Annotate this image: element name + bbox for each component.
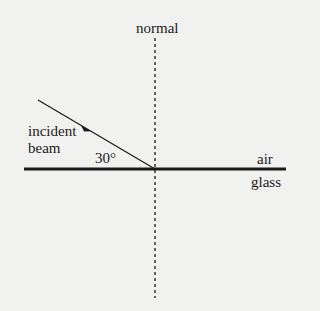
arrowhead-icon [81,125,91,131]
beam-label: beam [28,141,60,156]
glass-label: glass [251,175,281,190]
air-label: air [257,152,273,167]
angle-label: 30° [95,151,116,166]
normal-label: normal [136,21,179,36]
incident-label: incident [28,124,76,139]
